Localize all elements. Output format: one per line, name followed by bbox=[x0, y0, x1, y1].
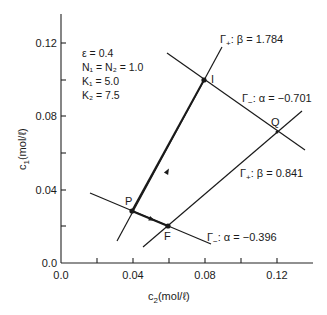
param-n: N₁ = N₂ = 1.0 bbox=[82, 61, 143, 73]
label-gamma-plus-1784: Γ+: β = 1.784 bbox=[220, 33, 283, 48]
x-axis-label: c2(mol/ℓ) bbox=[148, 290, 190, 305]
point-f-marker bbox=[165, 223, 170, 228]
characteristic-lines bbox=[90, 47, 305, 247]
param-k1: K₁ = 5.0 bbox=[82, 75, 119, 87]
parameter-block: ε = 0.4 N₁ = N₂ = 1.0 K₁ = 5.0 K₂ = 7.5 bbox=[82, 47, 143, 101]
arrow-up-icon bbox=[164, 167, 171, 175]
line-labels: Γ+: β = 1.784 Γ−: α = −0.701 Γ+: β = 0.8… bbox=[207, 33, 312, 246]
path-p-to-i bbox=[132, 80, 204, 211]
x-tick-labels: 0.0 0.04 0.08 0.12 bbox=[53, 269, 287, 281]
point-p-marker bbox=[129, 208, 134, 213]
x-tick-label: 0.08 bbox=[194, 269, 215, 281]
y-tick-label: 0.04 bbox=[36, 184, 57, 196]
y-tick-label: 0.12 bbox=[36, 37, 57, 49]
point-label-p: P bbox=[125, 195, 132, 207]
param-k2: K₂ = 7.5 bbox=[82, 89, 120, 101]
chart-figure: 0.0 0.04 0.08 0.12 0.0 0.04 0.08 0.12 c2… bbox=[0, 0, 327, 315]
point-q-marker bbox=[276, 131, 279, 134]
point-label-i: I bbox=[211, 73, 214, 85]
param-epsilon: ε = 0.4 bbox=[82, 47, 113, 59]
point-label-q: Q bbox=[271, 116, 280, 128]
x-tick-label: 0.12 bbox=[266, 269, 287, 281]
x-tick-label: 0.0 bbox=[53, 269, 68, 281]
y-tick-labels: 0.0 0.04 0.08 0.12 bbox=[36, 37, 57, 269]
y-tick-label: 0.08 bbox=[36, 110, 57, 122]
chart-svg: 0.0 0.04 0.08 0.12 0.0 0.04 0.08 0.12 c2… bbox=[0, 0, 327, 315]
label-gamma-minus-0701: Γ−: α = −0.701 bbox=[242, 92, 312, 107]
y-tick-label: 0.0 bbox=[42, 257, 57, 269]
label-gamma-minus-0396: Γ−: α = −0.396 bbox=[207, 231, 277, 246]
y-axis-label: c1(mol/ℓ) bbox=[16, 128, 31, 170]
point-label-f: F bbox=[164, 230, 171, 242]
x-tick-label: 0.04 bbox=[122, 269, 143, 281]
point-i-marker bbox=[201, 77, 206, 82]
label-gamma-plus-0841: Γ+: β = 0.841 bbox=[240, 167, 303, 182]
